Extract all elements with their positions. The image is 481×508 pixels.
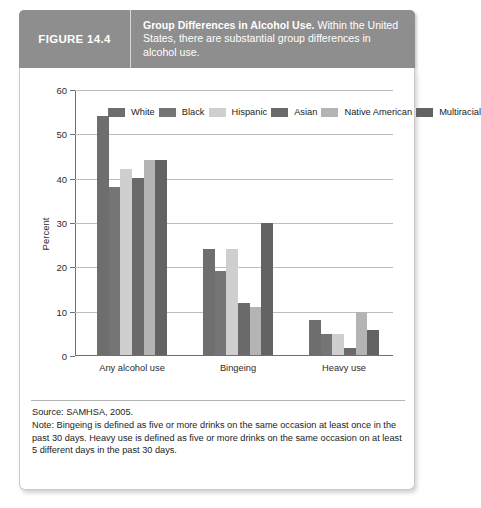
legend-label: Hispanic — [232, 107, 268, 117]
y-axis-tick-label: 0 — [62, 351, 67, 362]
x-axis-group-label: Heavy use — [322, 363, 366, 373]
bar — [144, 160, 156, 355]
figure-caption: Group Differences in Alcohol Use. Within… — [143, 19, 405, 60]
y-axis-tick-label: 30 — [56, 218, 67, 229]
bar — [109, 187, 121, 355]
legend-item: Multiracial — [416, 104, 481, 120]
figure-number-cell: FIGURE 14.4 — [19, 10, 131, 68]
y-axis-tick-label: 10 — [56, 306, 67, 317]
legend-label: White — [131, 107, 155, 117]
bar — [356, 312, 368, 355]
legend-item: White — [108, 104, 155, 120]
y-axis-tick-label: 60 — [56, 85, 67, 96]
gridline — [75, 134, 393, 135]
legend-swatch — [271, 108, 288, 117]
y-axis-title: Percent — [40, 218, 51, 251]
bar — [120, 169, 132, 355]
footnote-note: Note: Bingeing is defined as five or mor… — [32, 419, 406, 456]
figure-header-banner: FIGURE 14.4 Group Differences in Alcohol… — [19, 10, 415, 68]
gridline — [75, 90, 393, 91]
y-axis-tick-mark — [70, 312, 75, 313]
x-axis-group-label: Any alcohol use — [99, 363, 165, 373]
legend-item: Hispanic — [209, 104, 268, 120]
bar — [238, 303, 250, 355]
footnote: Source: SAMHSA, 2005. Note: Bingeing is … — [32, 406, 406, 457]
figure-caption-cell: Group Differences in Alcohol Use. Within… — [131, 10, 415, 68]
bar — [332, 334, 344, 355]
legend-item: Asian — [271, 104, 317, 120]
chart-legend: WhiteBlackHispanicAsianNative AmericanMu… — [108, 104, 398, 120]
legend-item: Native American — [321, 104, 412, 120]
y-axis-tick-mark — [70, 267, 75, 268]
bar — [132, 178, 144, 355]
x-axis-group-label: Bingeing — [220, 363, 256, 373]
bar — [367, 330, 379, 355]
bar-chart: Percent 0102030405060 Any alcohol useBin… — [20, 68, 416, 400]
legend-label: Native American — [344, 107, 412, 117]
y-axis-tick-mark — [70, 134, 75, 135]
y-axis-tick-label: 20 — [56, 262, 67, 273]
bar — [215, 271, 227, 355]
bar — [344, 348, 356, 355]
legend-swatch — [209, 108, 226, 117]
bar — [321, 334, 333, 355]
figure-caption-title: Group Differences in Alcohol Use. — [143, 19, 315, 31]
y-axis-tick-mark — [70, 356, 75, 357]
bar — [250, 307, 262, 355]
y-axis-tick-label: 50 — [56, 129, 67, 140]
bar — [309, 320, 321, 355]
legend-swatch — [321, 108, 338, 117]
legend-label: Multiracial — [439, 107, 481, 117]
bar — [97, 116, 109, 355]
legend-swatch — [159, 108, 176, 117]
y-axis-tick-mark — [70, 179, 75, 180]
y-axis-tick-label: 40 — [56, 173, 67, 184]
footnote-divider — [31, 400, 405, 401]
y-axis-tick-mark — [70, 90, 75, 91]
bar — [155, 160, 167, 355]
legend-label: Asian — [294, 107, 317, 117]
legend-swatch — [108, 108, 125, 117]
y-axis-tick-mark — [70, 223, 75, 224]
bar — [226, 249, 238, 355]
footnote-source: Source: SAMHSA, 2005. — [32, 406, 406, 418]
legend-item: Black — [159, 104, 205, 120]
bar — [261, 223, 273, 355]
legend-swatch — [416, 108, 433, 117]
figure-panel: Percent 0102030405060 Any alcohol useBin… — [19, 68, 415, 490]
bar — [203, 249, 215, 355]
figure-number-label: FIGURE 14.4 — [38, 33, 110, 45]
legend-label: Black — [182, 107, 205, 117]
plot-area: 0102030405060 Any alcohol useBingeingHea… — [75, 90, 393, 356]
